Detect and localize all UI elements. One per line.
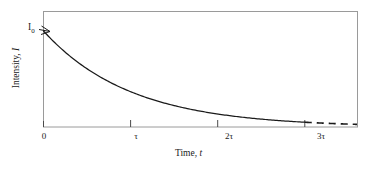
- x-tick-label-3tau: 3τ: [311, 131, 331, 141]
- initial-intensity-subscript: 0: [31, 27, 35, 35]
- x-axis-ticks: [44, 120, 305, 127]
- x-tick-label-tau: τ: [126, 131, 146, 141]
- y-axis-title-text: Intensity,: [11, 53, 21, 88]
- x-axis-title-symbol: t: [199, 148, 202, 158]
- x-axis-title-text: Time,: [175, 148, 197, 158]
- x-axis-title: Time, t: [0, 148, 377, 158]
- decay-curve-dashed-extension: [305, 122, 357, 124]
- x-tick-label-0: 0: [34, 131, 54, 141]
- y-axis-title: Intensity, I: [11, 18, 21, 118]
- decay-curve-solid: [44, 31, 305, 122]
- plot-canvas: [0, 0, 377, 170]
- initial-intensity-arrow-icon: [39, 26, 50, 35]
- plot-frame: [44, 12, 358, 128]
- x-tick-label-2tau: 2τ: [219, 131, 239, 141]
- decay-curve-figure: I0 0 τ 2τ 3τ Time, t Intensity, I: [0, 0, 377, 170]
- y-axis-title-symbol: I: [11, 48, 21, 51]
- initial-intensity-label: I0: [28, 22, 35, 35]
